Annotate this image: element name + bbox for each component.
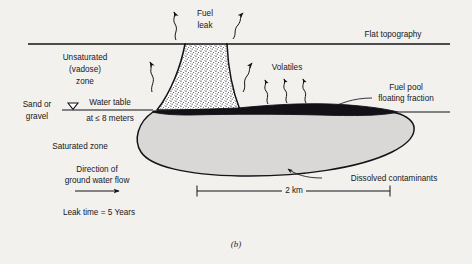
flow-direction-label-line2: ground water flow	[65, 176, 130, 185]
sand-or-gravel-label-line1: Sand or	[23, 100, 52, 109]
leak-time-label: Leak time = 5 Years	[63, 208, 135, 217]
flat-topography-label: Flat topography	[365, 30, 423, 39]
water-table-label-line1: Water table	[89, 98, 131, 107]
fuel-pool-label-line1: Fuel pool	[389, 83, 423, 92]
fuel-leak-label-line2: leak	[197, 21, 213, 30]
flow-direction-label-line1: Direction of	[76, 165, 118, 174]
figure-root: Fuel leak Flat topography Unsaturated (v…	[0, 0, 472, 264]
figure-caption: (b)	[231, 239, 242, 249]
fuel-leak-label-line1: Fuel	[197, 9, 213, 18]
saturated-zone-label: Saturated zone	[52, 142, 108, 151]
unsaturated-zone-label-line2: (vadose)	[69, 65, 101, 74]
scale-bar-label: 2 km	[285, 186, 303, 195]
volatiles-label: Volatiles	[272, 63, 303, 72]
fuel-pool-label-line2: floating fraction	[378, 94, 434, 103]
sand-or-gravel-label-line2: gravel	[26, 112, 48, 121]
unsaturated-zone-label-line3: zone	[76, 77, 94, 86]
unsaturated-zone-label-line1: Unsaturated	[63, 53, 108, 62]
dissolved-contaminants-label: Dissolved contaminants	[351, 174, 437, 183]
water-table-label-line2: at ≤ 8 meters	[86, 114, 134, 123]
